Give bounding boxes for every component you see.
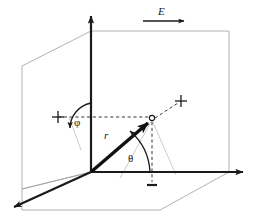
back-vertical-plane	[91, 31, 229, 172]
polar-angle-label-theta: θ	[128, 153, 133, 164]
point-marker	[149, 115, 154, 120]
guide-point-to-floor-right	[152, 120, 176, 175]
cross-marker-left-icon	[52, 111, 64, 123]
plane-outlines	[22, 31, 229, 210]
field-label-E: E	[158, 6, 165, 17]
faint-projection-guides	[69, 117, 176, 178]
left-vertical-plane	[22, 31, 91, 189]
dashed-construction-lines	[58, 103, 178, 182]
position-vector-group	[91, 115, 155, 172]
cross-marker-right-icon	[175, 95, 187, 107]
floor-plane	[22, 172, 229, 210]
radius-label-r: r	[104, 130, 108, 141]
figure-canvas	[0, 0, 255, 222]
dashed-to-cross-right	[155, 103, 178, 118]
y-axis	[14, 172, 91, 207]
coordinate-axes	[14, 16, 243, 207]
azimuth-angle-label-phi: φ	[74, 117, 80, 128]
guide-point-to-floor-left	[120, 120, 152, 178]
position-vector-r	[91, 123, 148, 172]
spherical-coordinate-figure: E r θ φ	[0, 0, 255, 222]
